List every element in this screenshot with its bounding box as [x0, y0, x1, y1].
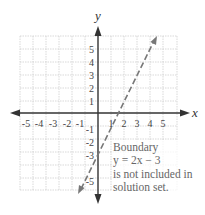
y-axis-up-arrow-icon [95, 26, 102, 36]
line-arrow-up-icon [151, 36, 158, 45]
x-tick: -5 [22, 118, 30, 129]
annotation-line-1: Boundary [113, 141, 159, 154]
y-axis: y [93, 8, 102, 204]
y-tick: 4 [89, 57, 94, 68]
annotation-line-3: is not included in [113, 168, 193, 180]
coordinate-plane: x y -5 -4 -3 -2 -1 1 2 3 4 5 5 4 3 2 1 -… [0, 0, 205, 215]
y-tick: -3 [86, 150, 94, 161]
x-tick: 3 [135, 118, 140, 129]
x-axis-left-arrow-icon [10, 110, 20, 117]
x-tick: 5 [161, 118, 166, 129]
y-tick-labels: 5 4 3 2 1 -1 -2 -3 -5 [86, 44, 94, 187]
y-axis-label: y [93, 8, 101, 23]
x-tick: -3 [49, 118, 57, 129]
line-arrow-down-icon [78, 185, 85, 194]
annotation-line-4: solution set. [113, 181, 169, 193]
x-tick: -1 [76, 118, 84, 129]
y-tick: 1 [89, 96, 94, 107]
x-tick: -2 [63, 118, 71, 129]
annotation-line-2: y = 2x − 3 [113, 154, 161, 167]
x-axis-right-arrow-icon [180, 110, 190, 117]
y-axis-down-arrow-icon [95, 194, 102, 204]
y-tick: -1 [86, 124, 94, 135]
x-tick: -4 [35, 118, 43, 129]
y-tick: -2 [86, 137, 94, 148]
x-tick: 2 [122, 118, 127, 129]
y-tick: 5 [89, 44, 94, 55]
x-tick: 4 [148, 118, 153, 129]
x-axis-label: x [191, 105, 198, 120]
y-tick: 3 [89, 70, 94, 81]
y-tick: 2 [89, 83, 94, 94]
